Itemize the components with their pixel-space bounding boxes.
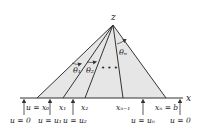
bc-label-u2: u = u₂: [63, 116, 87, 125]
base-label-x1: x₁: [59, 103, 66, 112]
thetan-label: θₙ: [119, 48, 127, 57]
base-label-x0: u = x₀: [26, 103, 49, 112]
base-label-xn-1: xₙ₋₁: [116, 103, 130, 112]
bc-label-u0-left: u = 0: [10, 116, 31, 125]
axis-label: x: [186, 93, 191, 103]
bc-label-u1: u = u₁: [38, 116, 62, 125]
theta1-label: θ₁: [73, 66, 81, 75]
base-label-x2: x₂: [81, 103, 88, 112]
ellipsis: • • •: [101, 64, 118, 72]
triangle-diagram: z x θ₁ θ₂ • • • θₙ u = x₀ x₁ x₂ xₙ₋₁ xₙ …: [0, 0, 200, 135]
base-label-xn: xₙ = b: [155, 103, 178, 112]
theta2-label: θ₂: [86, 66, 94, 75]
apex-label: z: [110, 12, 116, 22]
bc-label-un: u = uₙ: [131, 116, 155, 125]
bc-label-u0-right: u = 0: [170, 116, 191, 125]
